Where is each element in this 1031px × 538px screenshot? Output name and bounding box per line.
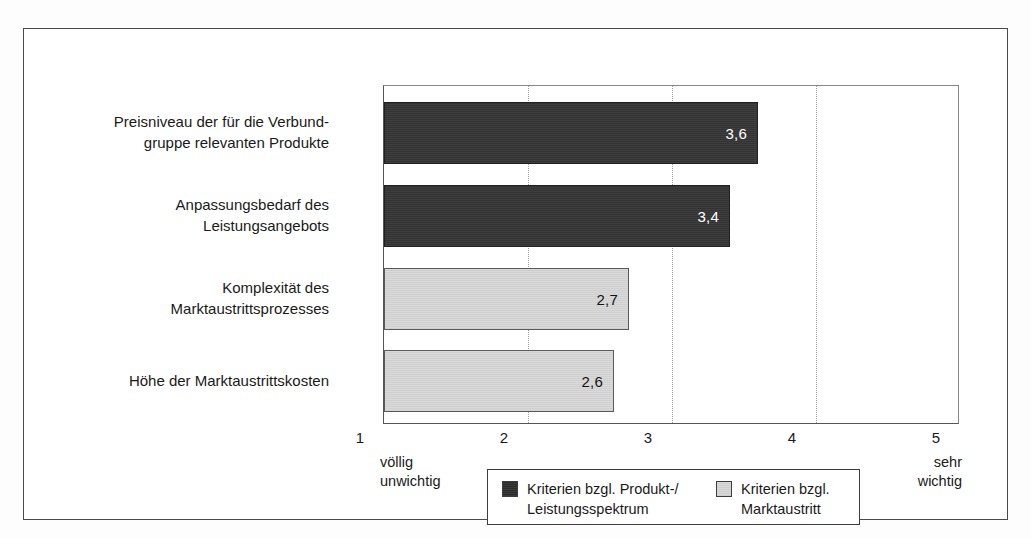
legend-entry-marktaustritt: Kriterien bzgl. Marktaustritt [716,479,830,519]
category-label-preisniveau: Preisniveau der für die Verbund- gruppe … [114,111,329,153]
bar-value-komplexitaet: 2,7 [597,291,618,308]
chart-legend: Kriterien bzgl. Produkt-/ Leistungsspekt… [487,469,860,525]
bar-preisniveau: 3,6 [384,102,758,164]
axis-end-label-left: völlig unwichtig [380,453,440,491]
legend-label-marktaustritt: Kriterien bzgl. Marktaustritt [741,479,830,519]
legend-label-produkt-leistungsspektrum: Kriterien bzgl. Produkt-/ Leistungsspekt… [527,479,679,519]
bar-hoehe-marktaustrittskosten: 2,6 [384,350,614,412]
legend-entry-produkt-leistungsspektrum: Kriterien bzgl. Produkt-/ Leistungsspekt… [502,479,716,519]
category-label-anpassungsbedarf: Anpassungsbedarf des Leistungsangebots [176,194,329,236]
axis-end-label-right: sehr wichtig [918,453,962,491]
bar-anpassungsbedarf: 3,4 [384,185,730,247]
bar-value-anpassungsbedarf: 3,4 [698,208,719,225]
x-tick-1: 1 [356,429,364,446]
figure-root: Preisniveau der für die Verbund- gruppe … [0,0,1031,538]
x-tick-2: 2 [500,429,508,446]
x-tick-5: 5 [932,429,940,446]
gridline-4 [816,86,817,423]
category-label-komplexitaet: Komplexität des Marktaustrittsprozesses [171,277,329,319]
category-label-hoehe-marktaustrittskosten: Höhe der Marktaustrittskosten [129,370,329,391]
x-tick-4: 4 [788,429,796,446]
figure-frame: Preisniveau der für die Verbund- gruppe … [23,28,1008,520]
plot-area: 3,6 3,4 2,7 2,6 [383,85,959,424]
bar-value-preisniveau: 3,6 [726,125,747,142]
legend-swatch-dark-icon [502,481,518,497]
legend-swatch-light-icon [716,481,732,497]
bar-value-hoehe-marktaustrittskosten: 2,6 [582,373,603,390]
bar-komplexitaet: 2,7 [384,268,629,330]
x-tick-3: 3 [644,429,652,446]
